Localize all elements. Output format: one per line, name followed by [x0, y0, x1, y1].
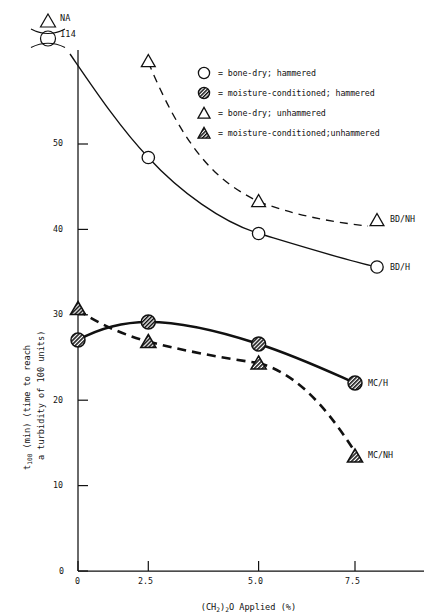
y-axis-title-rest: (min) (time to reach — [22, 345, 32, 454]
data-point-marker — [348, 376, 362, 390]
y-tick-label-0: 0 — [59, 566, 64, 576]
data-point-marker — [70, 302, 85, 315]
y-tick-label-20: 20 — [53, 395, 63, 405]
series-bd-h — [70, 54, 383, 273]
x-axis-title-post: O Applied (%) — [229, 602, 296, 612]
data-point-marker — [347, 449, 362, 462]
x-tick-label-2-5: 2.5 — [138, 576, 153, 586]
series-mc-h — [71, 315, 362, 390]
data-point-marker — [252, 227, 264, 239]
x-axis-title: (CH2)2O Applied (%) — [180, 592, 296, 616]
curve-label-mc-h: MC/H — [368, 378, 388, 388]
y-tick-label-40: 40 — [53, 224, 63, 234]
x-tick-label-5-0: 5.0 — [248, 576, 263, 586]
data-point-marker — [142, 151, 154, 163]
x-tick-label-7-5: 7.5 — [345, 576, 360, 586]
y-tick-label-10: 10 — [53, 480, 63, 490]
curve-label-mc-nh: MC/NH — [368, 450, 393, 460]
series-bd-nh — [141, 55, 384, 227]
data-point-marker — [252, 337, 266, 351]
data-point-marker — [141, 315, 155, 329]
axis-lines — [78, 50, 424, 571]
data-point-marker — [371, 261, 383, 273]
data-point-marker — [141, 335, 156, 348]
y-tick-label-30: 30 — [53, 309, 63, 319]
data-point-marker — [141, 55, 155, 67]
curve-label-bd-nh: BD/NH — [390, 214, 415, 224]
y-axis-title-t: t — [22, 465, 32, 470]
x-axis-title-pre: (CH — [201, 602, 217, 612]
y-axis-ticks — [78, 144, 88, 571]
y-axis-title-subscript: 100 — [26, 454, 33, 465]
x-tick-label-0: 0 — [75, 576, 80, 586]
data-point-marker — [71, 333, 85, 347]
data-point-marker — [370, 214, 384, 226]
x-axis-ticks — [78, 561, 355, 571]
y-tick-label-50: 50 — [53, 138, 63, 148]
data-point-marker — [252, 195, 266, 207]
curve-label-bd-h: BD/H — [390, 262, 410, 272]
